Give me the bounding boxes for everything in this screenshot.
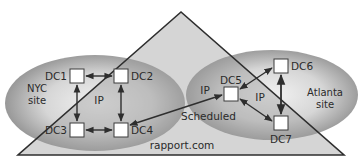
dc1-node [70, 69, 84, 83]
scheduled-label: Scheduled [181, 110, 236, 122]
atlanta-site-label-line1: Atlanta [307, 87, 343, 98]
dc3-label: DC3 [45, 124, 67, 136]
nyc-ip-label: IP [94, 94, 103, 106]
dc6-label: DC6 [291, 60, 313, 72]
dc7-node [274, 116, 288, 130]
domain-label: rapport.com [150, 139, 215, 151]
dc4-label: DC4 [131, 124, 153, 136]
nyc-site-label-line2: site [28, 95, 46, 106]
dc5-node [224, 87, 238, 101]
nyc-site-label-line1: NYC [27, 83, 47, 94]
dc4-node [114, 123, 128, 137]
intersite-ip-label: IP [200, 84, 209, 96]
atlanta-ip-label: IP [255, 91, 264, 103]
dc1-label: DC1 [45, 70, 67, 82]
dc7-label: DC7 [270, 133, 292, 145]
dc5-label: DC5 [220, 74, 242, 86]
dc2-label: DC2 [131, 70, 153, 82]
atlanta-site-label-line2: site [316, 99, 334, 110]
replication-diagram: DC1 DC2 DC3 DC4 DC5 DC6 DC7 NYC site Atl… [0, 0, 358, 164]
dc6-node [274, 59, 288, 73]
dc2-node [114, 69, 128, 83]
dc3-node [70, 123, 84, 137]
